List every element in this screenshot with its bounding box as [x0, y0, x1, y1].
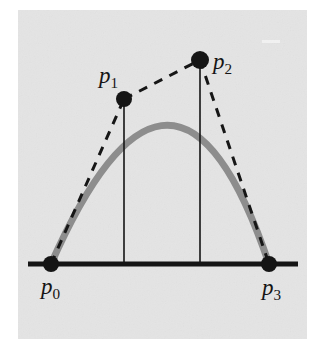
bezier-diagram: p0 p1 p2 p3 [0, 0, 320, 351]
control-point-p3[interactable] [261, 256, 277, 272]
point-label-p1-sub: 1 [111, 74, 119, 91]
control-point-p0[interactable] [43, 256, 59, 272]
scan-artifact [262, 40, 280, 43]
point-label-p2-base: p [211, 49, 225, 74]
point-label-p3-sub: 3 [274, 286, 282, 303]
control-point-p1[interactable] [116, 91, 132, 107]
point-label-p0-base: p [39, 274, 53, 299]
figure-root: p0 p1 p2 p3 [0, 0, 320, 351]
point-label-p3-base: p [260, 275, 274, 300]
point-label-p2-sub: 2 [225, 60, 233, 77]
point-label-p1-base: p [97, 63, 111, 88]
point-label-p0-sub: 0 [53, 285, 61, 302]
control-point-p2[interactable] [191, 51, 209, 69]
